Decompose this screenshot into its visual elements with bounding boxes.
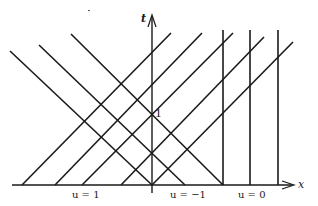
left-characteristic-line [10,51,152,185]
characteristics-diagram: x t 1 u = 1 u = −1 u = 0 [0,0,318,206]
t-axis-label: t [141,12,146,25]
left-characteristic-line [39,45,185,185]
t-tick-label: 1 [155,107,162,120]
x-axis-label: x [298,178,305,191]
region-label-u1: u = 1 [72,189,100,200]
speck-mark [88,10,90,11]
right-characteristic-line [22,33,171,185]
right-characteristic-line [121,37,264,185]
region-label-u0: u = 0 [238,189,266,200]
region-label-u-neg1: u = −1 [170,189,206,200]
